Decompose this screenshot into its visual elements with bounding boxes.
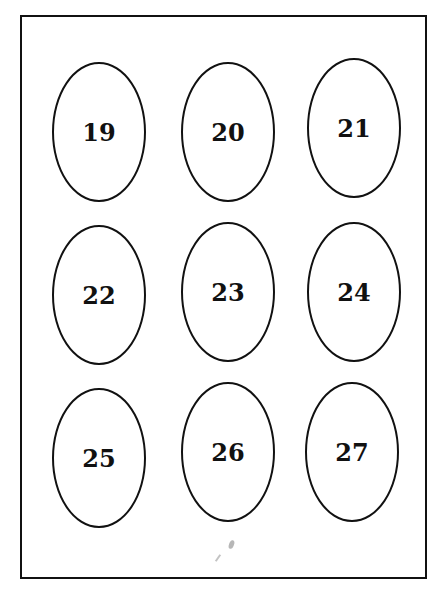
oval-20: 20	[181, 62, 275, 202]
oval-21: 21	[307, 58, 401, 198]
oval-label: 22	[82, 281, 115, 310]
oval-label: 20	[211, 118, 244, 147]
oval-label: 21	[337, 114, 370, 143]
oval-26: 26	[181, 382, 275, 522]
oval-24: 24	[307, 222, 401, 362]
oval-label: 26	[211, 438, 244, 467]
oval-27: 27	[305, 382, 399, 522]
oval-label: 19	[82, 118, 115, 147]
oval-19: 19	[52, 62, 146, 202]
oval-25: 25	[52, 388, 146, 528]
oval-label: 27	[335, 438, 368, 467]
oval-label: 25	[82, 444, 115, 473]
oval-label: 23	[211, 278, 244, 307]
oval-label: 24	[337, 278, 370, 307]
oval-22: 22	[52, 225, 146, 365]
oval-23: 23	[181, 222, 275, 362]
